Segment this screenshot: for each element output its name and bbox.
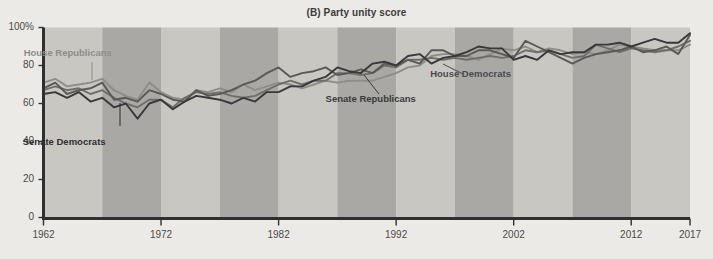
series-annotation-senate-republicans: Senate Republicans <box>326 93 416 104</box>
series-annotation-senate-democrats: Senate Democrats <box>23 136 106 147</box>
background-band <box>337 28 396 218</box>
chart-plot-svg <box>0 0 713 259</box>
y-axis-tick-label: 20 <box>0 173 34 184</box>
y-axis-tick-label: 100% <box>0 21 34 32</box>
background-band <box>161 28 220 218</box>
series-annotation-house-democrats: House Democrats <box>430 67 511 78</box>
background-band <box>631 28 690 218</box>
background-band <box>279 28 338 218</box>
y-axis-tick-label: 0 <box>0 211 34 222</box>
party-unity-chart: (B) Party unity score 020406080100% 1962… <box>0 0 713 259</box>
y-axis-tick-label: 60 <box>0 97 34 108</box>
x-axis-tick-label: 1992 <box>376 229 416 240</box>
series-annotation-house-republicans: House Republicans <box>24 46 112 57</box>
x-axis-tick-label: 2017 <box>670 229 710 240</box>
x-axis-tick-label: 2012 <box>611 229 651 240</box>
y-axis-tick-label: 80 <box>0 59 34 70</box>
x-axis-tick-label: 2002 <box>494 229 534 240</box>
x-axis-tick-label: 1962 <box>24 229 64 240</box>
background-band <box>220 28 279 218</box>
x-axis-tick-label: 1972 <box>141 229 181 240</box>
x-axis-tick-label: 1982 <box>259 229 299 240</box>
